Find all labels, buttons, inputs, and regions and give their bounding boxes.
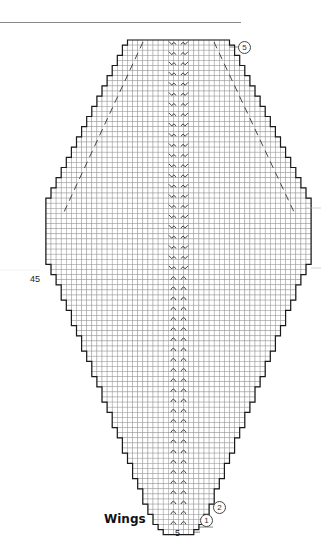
row-callout-5: 5 (238, 41, 251, 54)
chart-title: Wings (104, 512, 146, 526)
row-marker-45: 45 (30, 274, 40, 284)
row-callout-1: 1 (200, 514, 213, 527)
row-callout-2: 2 (213, 501, 226, 514)
wing-knitting-chart (0, 0, 321, 558)
bottom-stitch-count: 5 (175, 528, 180, 538)
